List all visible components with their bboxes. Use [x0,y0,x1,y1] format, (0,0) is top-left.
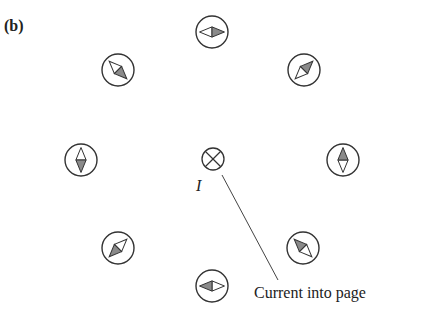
compass-icon [65,144,97,176]
current-symbol: I [195,177,202,194]
figure-canvas: (b) I Current into page [0,0,433,329]
callout-label: Current into page [254,284,366,302]
compass-icon [102,232,134,264]
magnetic-field-diagram: (b) I Current into page [0,0,433,329]
panel-label: (b) [4,17,24,35]
compass-icon [196,270,228,302]
compass-icon [196,16,228,48]
compass-icon [287,232,319,264]
compass-icon [102,54,134,86]
compass-icon [288,54,320,86]
current-marker-icon [202,148,224,170]
compass-icon [327,144,359,176]
callout-leader-line [222,175,278,280]
